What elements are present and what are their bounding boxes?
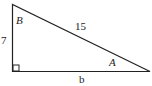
label-horizontal-side: b: [79, 73, 85, 85]
triangle-diagram: 7 B 15 A b: [0, 0, 152, 86]
label-angle-a: A: [108, 56, 116, 68]
label-hypotenuse: 15: [75, 20, 87, 32]
label-angle-b: B: [16, 14, 23, 26]
right-angle-marker: [13, 65, 19, 71]
label-vertical-side: 7: [1, 34, 7, 46]
triangle: [13, 5, 151, 72]
